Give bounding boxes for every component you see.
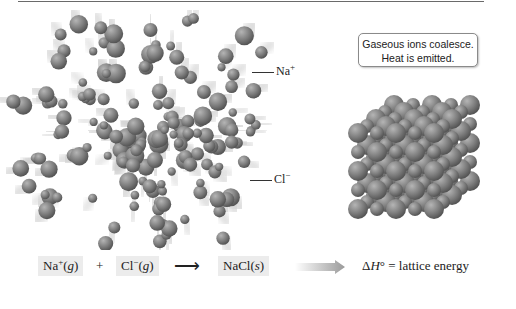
cl-ion-label: Cl−	[274, 172, 290, 187]
na-ion-label: Na+	[276, 64, 295, 79]
callout-line-2: Heat is emitted.	[359, 51, 477, 65]
callout-box: Gaseous ions coalesce. Heat is emitted.	[358, 33, 478, 67]
gaseous-ions-illustration	[0, 10, 300, 250]
lattice-energy-expression: ΔH° = lattice energy	[362, 255, 469, 277]
nacl-crystal-illustration	[330, 95, 510, 250]
gradient-arrow-icon	[295, 260, 345, 274]
na-leader-line	[252, 72, 274, 73]
product-nacl: NaCl(s)	[218, 255, 269, 277]
plus-sign: +	[96, 255, 103, 277]
reactant-cl: Cl−(g)	[116, 255, 159, 277]
top-rule	[18, 1, 484, 2]
cl-leader-line	[250, 180, 272, 181]
callout-line-1: Gaseous ions coalesce.	[359, 37, 477, 51]
reactant-na: Na+(g)	[38, 255, 83, 277]
reaction-arrow: ⟶	[174, 255, 200, 277]
